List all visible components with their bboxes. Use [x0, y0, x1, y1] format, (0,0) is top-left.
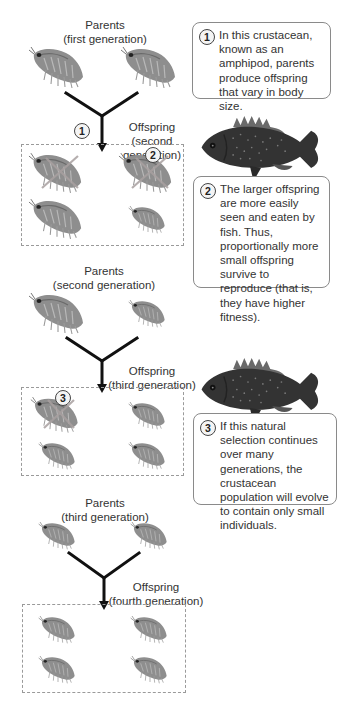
callout-2: 2 The larger offspring are more easily s… [193, 176, 330, 288]
callout-1: 1 In this crustacean, known as an amphip… [192, 22, 331, 99]
amphipod-icon [38, 614, 78, 644]
amphipod-icon [38, 654, 78, 684]
callout-number-2: 2 [200, 183, 216, 199]
amphipod-icon [128, 204, 168, 234]
callout-text-3: If this natural selection continues over… [220, 420, 329, 531]
callout-number-3: 3 [200, 420, 216, 436]
amphipod-icon [38, 440, 78, 470]
amphipod-icon [128, 440, 168, 470]
callout-number-1: 1 [199, 29, 215, 45]
eaten-marker-3: 3 [55, 390, 71, 406]
amphipod-icon [128, 400, 168, 430]
amphipod-icon [28, 290, 88, 335]
amphipod-icon [28, 196, 86, 240]
callout-3: 3 If this natural selection continues ov… [193, 413, 337, 505]
cross-out-icon [38, 152, 82, 192]
amphipod-icon [38, 520, 78, 550]
callout-text-2: The larger offspring are more easily see… [220, 183, 320, 323]
fish-icon [196, 112, 326, 182]
amphipod-icon [128, 298, 168, 328]
parents-label-gen2: Parents (second generation) [48, 264, 160, 292]
eaten-marker-2: 2 [145, 147, 161, 163]
amphipod-icon [130, 654, 170, 684]
step-marker-1: 1 [74, 123, 90, 139]
amphipod-icon [130, 614, 170, 644]
amphipod-icon [130, 520, 170, 550]
